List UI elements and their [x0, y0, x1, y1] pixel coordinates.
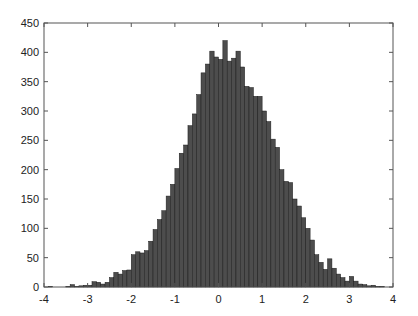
- y-tick-label: 200: [21, 164, 39, 176]
- histogram-bar: [192, 114, 196, 287]
- histogram-bar: [205, 64, 209, 287]
- histogram-bar: [271, 139, 275, 287]
- histogram-bar: [253, 96, 257, 287]
- x-tick-label: -2: [126, 293, 136, 305]
- histogram-bar: [210, 51, 214, 287]
- y-tick-label: 250: [21, 134, 39, 146]
- histogram-bar: [157, 220, 161, 287]
- histogram-bar: [144, 251, 148, 287]
- histogram-bar: [219, 59, 223, 287]
- histogram-bar: [301, 218, 305, 287]
- histogram-bar: [297, 206, 301, 287]
- histogram-bar: [92, 282, 96, 287]
- histogram-bar: [332, 268, 336, 287]
- histogram-bar: [223, 41, 227, 287]
- y-tick-label: 450: [21, 17, 39, 29]
- histogram-bar: [162, 211, 166, 287]
- x-tick-label: 2: [303, 293, 309, 305]
- x-tick-label: 4: [390, 293, 396, 305]
- histogram-bar: [114, 272, 118, 287]
- histogram-bar: [96, 282, 100, 287]
- x-tick-label: -1: [170, 293, 180, 305]
- histogram-bars: [48, 41, 384, 287]
- histogram-bar: [258, 96, 262, 287]
- histogram-bar: [262, 111, 266, 287]
- y-tick-label: 350: [21, 76, 39, 88]
- x-tick-label: 1: [259, 293, 265, 305]
- histogram-bar: [288, 183, 292, 287]
- histogram-bar: [184, 145, 188, 287]
- histogram-bar: [328, 259, 332, 287]
- y-tick-label: 0: [33, 281, 39, 293]
- histogram-bar: [149, 241, 153, 287]
- histogram-bar: [275, 147, 279, 287]
- histogram-bar: [341, 278, 345, 287]
- y-tick-label: 150: [21, 193, 39, 205]
- histogram-bar: [306, 228, 310, 287]
- histogram-bar: [109, 278, 113, 287]
- x-tick-label: -3: [83, 293, 93, 305]
- histogram-bar: [336, 274, 340, 287]
- histogram-bar: [175, 168, 179, 287]
- histogram-bar: [166, 196, 170, 287]
- histogram-bar: [136, 252, 140, 287]
- histogram-bar: [232, 58, 236, 287]
- histogram-bar: [153, 230, 157, 287]
- x-tick-label: 0: [215, 293, 221, 305]
- histogram-bar: [293, 199, 297, 287]
- histogram-bar: [118, 274, 122, 287]
- histogram-bar: [323, 269, 327, 287]
- histogram-chart: -4-3-2-101234 05010015020025030035040045…: [0, 0, 418, 316]
- y-tick-label: 300: [21, 105, 39, 117]
- histogram-bar: [127, 270, 131, 287]
- histogram-bar: [284, 181, 288, 287]
- histogram-bar: [266, 122, 270, 287]
- histogram-bar: [249, 88, 253, 287]
- y-tick-label: 400: [21, 46, 39, 58]
- y-tick-label: 100: [21, 222, 39, 234]
- histogram-bar: [245, 86, 249, 287]
- histogram-bar: [179, 153, 183, 287]
- histogram-bar: [140, 253, 144, 287]
- histogram-bar: [345, 281, 349, 287]
- histogram-bar: [240, 67, 244, 287]
- y-tick-label: 50: [27, 252, 39, 264]
- histogram-bar: [349, 276, 353, 287]
- histogram-bar: [123, 271, 127, 287]
- x-tick-label: -4: [39, 293, 49, 305]
- histogram-bar: [354, 281, 358, 287]
- histogram-bar: [105, 282, 109, 287]
- histogram-bar: [319, 262, 323, 287]
- histogram-bar: [197, 95, 201, 287]
- histogram-bar: [310, 240, 314, 287]
- histogram-bar: [214, 57, 218, 287]
- x-tick-label: 3: [346, 293, 352, 305]
- histogram-bar: [171, 184, 175, 287]
- histogram-bar: [280, 170, 284, 287]
- histogram-bar: [201, 73, 205, 287]
- histogram-bar: [314, 255, 318, 287]
- histogram-bar: [188, 126, 192, 287]
- histogram-bar: [236, 51, 240, 287]
- histogram-bar: [227, 61, 231, 287]
- histogram-bar: [131, 255, 135, 287]
